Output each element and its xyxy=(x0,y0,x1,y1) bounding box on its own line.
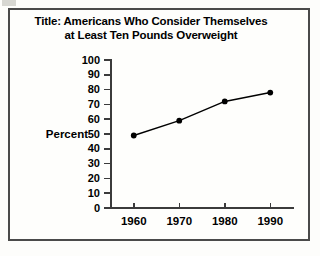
data-point-1970 xyxy=(176,118,182,124)
chart-figure: Title: Americans Who Consider Themselves… xyxy=(0,0,320,256)
series-markers xyxy=(131,90,273,139)
data-point-1960 xyxy=(131,133,137,139)
series-line xyxy=(134,93,271,136)
data-point-1980 xyxy=(222,99,228,105)
data-point-1990 xyxy=(267,90,273,96)
series-plot xyxy=(0,0,320,256)
